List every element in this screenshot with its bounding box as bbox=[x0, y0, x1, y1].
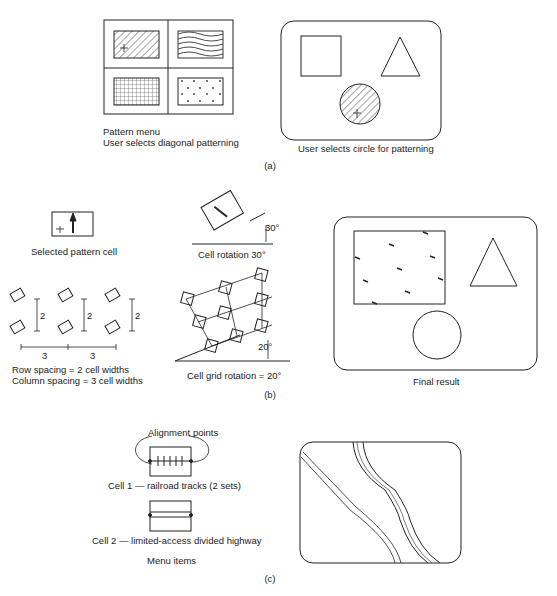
grid-rotation-angle: 20° bbox=[258, 341, 272, 352]
caption-b: (b) bbox=[255, 389, 285, 400]
row-spacing-value: 2 bbox=[135, 310, 140, 321]
column-spacing-value: 3 bbox=[42, 350, 47, 361]
selected-pattern-cell bbox=[52, 212, 93, 236]
screen-map-result bbox=[300, 442, 461, 563]
final-result-label: Final result bbox=[413, 376, 459, 387]
triangle-shape bbox=[381, 37, 420, 76]
screen-final-result bbox=[334, 217, 537, 370]
circle-shape-selected[interactable] bbox=[340, 84, 380, 124]
screen-instruction: User selects circle for patterning bbox=[298, 143, 434, 154]
grid-rotation-diagram bbox=[175, 268, 290, 361]
pattern-menu-label: Pattern menu bbox=[103, 126, 160, 137]
row-spacing-label: Row spacing = 2 cell widths bbox=[12, 364, 129, 375]
screen-before bbox=[281, 21, 441, 140]
menu-instruction: User selects diagonal patterning bbox=[103, 137, 239, 148]
cell-2-label: Cell 2 — limited-access divided highway bbox=[92, 535, 262, 546]
cell-1-railroad[interactable] bbox=[136, 436, 209, 476]
alignment-points-label: Alignment points bbox=[148, 427, 218, 438]
pattern-dots[interactable] bbox=[178, 78, 223, 105]
cell-rotation-angle: 30° bbox=[265, 222, 279, 233]
cell-rotation-label: Cell rotation 30° bbox=[198, 249, 266, 260]
column-spacing-value: 3 bbox=[90, 350, 95, 361]
column-spacing-label: Column spacing = 3 cell widths bbox=[12, 375, 143, 386]
row-spacing-value: 2 bbox=[87, 310, 92, 321]
cell-2-highway[interactable] bbox=[149, 501, 193, 531]
pattern-diagonal[interactable] bbox=[114, 31, 159, 58]
pattern-grid[interactable] bbox=[114, 78, 159, 105]
pattern-menu[interactable] bbox=[104, 20, 233, 114]
cell-spacing-diagram bbox=[10, 288, 135, 350]
caption-c: (c) bbox=[255, 573, 285, 584]
row-spacing-value: 2 bbox=[40, 310, 45, 321]
caption-a: (a) bbox=[255, 160, 285, 171]
menu-items-label: Menu items bbox=[147, 555, 196, 566]
selected-cell-label: Selected pattern cell bbox=[31, 246, 117, 257]
diagram-canvas bbox=[0, 0, 557, 596]
pattern-wavy[interactable] bbox=[178, 31, 223, 58]
grid-rotation-label: Cell grid rotation = 20° bbox=[187, 370, 281, 381]
square-shape bbox=[301, 36, 341, 76]
cell-1-label: Cell 1 — railroad tracks (2 sets) bbox=[108, 480, 241, 491]
rotated-cell bbox=[192, 190, 273, 244]
